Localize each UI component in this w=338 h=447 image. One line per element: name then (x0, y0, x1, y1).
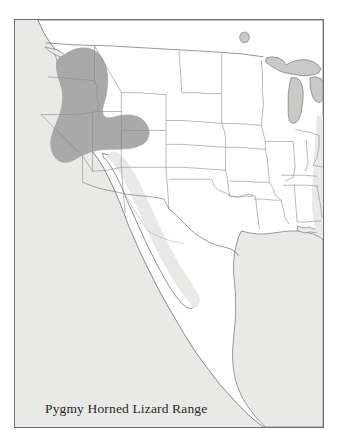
map-caption: Pygmy Horned Lizard Range (45, 402, 207, 416)
map-graphic (15, 20, 323, 427)
gulf-of-mexico (233, 231, 323, 427)
lake-of-the-woods (240, 32, 250, 43)
species-range-map-figure: Pygmy Horned Lizard Range (0, 0, 338, 447)
map-frame: Pygmy Horned Lizard Range (14, 19, 324, 428)
